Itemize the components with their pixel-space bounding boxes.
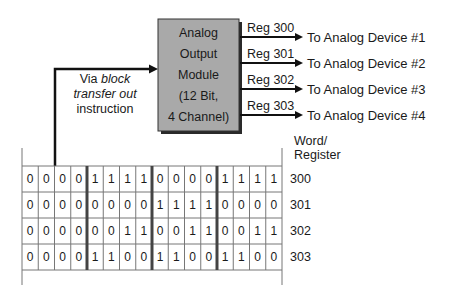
bit-cell: 0 [55, 192, 71, 218]
bit-cell: 0 [185, 166, 201, 192]
bit-cell: 0 [38, 244, 54, 270]
output-device-label: To Analog Device #4 [307, 108, 426, 123]
bit-cell: 1 [233, 166, 249, 192]
bit-cell: 0 [217, 192, 233, 218]
bit-cell: 0 [233, 218, 249, 244]
bit-cell: 1 [185, 218, 201, 244]
bit-cell: 0 [136, 244, 152, 270]
bit-cell: 1 [120, 218, 136, 244]
bit-cell: 0 [22, 218, 38, 244]
bit-cell: 1 [233, 244, 249, 270]
bit-cell: 0 [120, 192, 136, 218]
output-arrowhead [295, 59, 303, 67]
bit-cell: 0 [168, 218, 184, 244]
bit-cell: 1 [266, 218, 282, 244]
bit-cell: 1 [136, 218, 152, 244]
bit-cell: 0 [152, 166, 168, 192]
bit-cell: 1 [168, 192, 184, 218]
bit-cell: 0 [250, 244, 266, 270]
bit-cell: 1 [152, 244, 168, 270]
input-label-italic-2: transfer out [73, 87, 136, 101]
bit-cell: 0 [250, 192, 266, 218]
register-label: 302 [290, 224, 311, 238]
bit-cell: 1 [120, 166, 136, 192]
bit-cell: 1 [87, 166, 103, 192]
table-header-register: Register [294, 148, 341, 162]
bit-cell: 0 [71, 166, 87, 192]
bit-cell: 1 [266, 166, 282, 192]
bit-cell: 0 [55, 218, 71, 244]
output-reg-label: Reg 303 [247, 99, 294, 113]
bit-cell: 1 [185, 192, 201, 218]
input-label: Via block transfer out instruction [62, 72, 148, 117]
bit-cell: 1 [217, 166, 233, 192]
module-line: 4 Channel) [158, 107, 239, 128]
output-reg-label: Reg 300 [247, 21, 294, 35]
bit-cell: 0 [22, 192, 38, 218]
bit-cell: 0 [71, 244, 87, 270]
bit-cell: 0 [55, 166, 71, 192]
bit-cell: 0 [168, 166, 184, 192]
bit-cell: 1 [201, 218, 217, 244]
bit-cell: 1 [152, 192, 168, 218]
bit-cell: 0 [22, 166, 38, 192]
bit-cell: 0 [38, 166, 54, 192]
bit-cell: 1 [250, 166, 266, 192]
bit-cell: 0 [55, 244, 71, 270]
register-label: 303 [290, 250, 311, 264]
bit-cell: 1 [168, 244, 184, 270]
bit-cell: 1 [103, 166, 119, 192]
bit-cell: 0 [103, 192, 119, 218]
bit-cell: 0 [103, 218, 119, 244]
output-arrowhead [295, 111, 303, 119]
input-arrowhead [149, 65, 158, 74]
bit-cell: 0 [266, 192, 282, 218]
output-device-label: To Analog Device #1 [307, 30, 426, 45]
bit-cell: 1 [250, 218, 266, 244]
bit-cell: 0 [233, 192, 249, 218]
bit-cell: 0 [38, 218, 54, 244]
output-reg-label: Reg 302 [247, 73, 294, 87]
module-line: Module [158, 65, 239, 86]
bit-cell: 1 [87, 244, 103, 270]
input-label-italic-1: block [101, 72, 130, 86]
bit-cell: 0 [201, 166, 217, 192]
bit-cell: 0 [266, 244, 282, 270]
bit-cell: 0 [71, 192, 87, 218]
bit-cell: 0 [136, 192, 152, 218]
bit-cell: 0 [201, 244, 217, 270]
bit-cell: 0 [71, 218, 87, 244]
input-label-prefix: Via [80, 72, 98, 86]
bit-cell: 0 [217, 218, 233, 244]
register-label: 300 [290, 172, 311, 186]
bit-cell: 0 [87, 192, 103, 218]
output-reg-label: Reg 301 [247, 47, 294, 61]
bit-cell: 1 [136, 166, 152, 192]
input-label-suffix: instruction [62, 102, 148, 117]
table-header-word: Word/ [294, 134, 327, 148]
bit-cell: 0 [22, 244, 38, 270]
module-line: Analog [158, 23, 239, 44]
output-arrowhead [295, 85, 303, 93]
bit-cell: 0 [87, 218, 103, 244]
bit-cell: 1 [217, 244, 233, 270]
register-label: 301 [290, 198, 311, 212]
module-label: Analog Output Module (12 Bit, 4 Channel) [158, 19, 239, 131]
output-arrowhead [295, 33, 303, 41]
module-line: (12 Bit, [158, 86, 239, 107]
bit-cell: 0 [152, 218, 168, 244]
bit-cell: 0 [38, 192, 54, 218]
bit-cell: 1 [201, 192, 217, 218]
module-line: Output [158, 44, 239, 65]
bit-cell: 0 [120, 244, 136, 270]
output-device-label: To Analog Device #2 [307, 56, 426, 71]
bit-cell: 0 [185, 244, 201, 270]
bit-cell: 1 [103, 244, 119, 270]
output-device-label: To Analog Device #3 [307, 82, 426, 97]
